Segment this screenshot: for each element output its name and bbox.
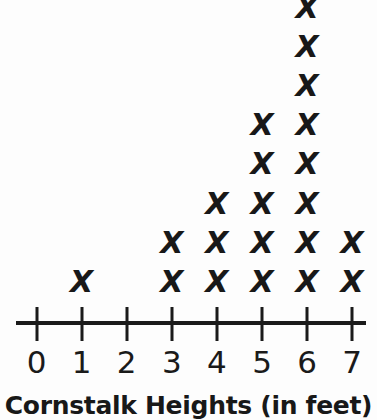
x-mark: X (160, 228, 183, 258)
x-mark: X (205, 228, 228, 258)
axis-tick-label: 0 (27, 347, 47, 378)
axis-tick-label: 7 (342, 347, 362, 378)
axis-tick (35, 307, 38, 341)
axis-tick-label: 6 (297, 347, 317, 378)
chart-title: Cornstalk Heights (in feet) (0, 393, 377, 418)
x-mark: X (250, 110, 273, 140)
x-mark: X (296, 32, 319, 62)
axis-line (16, 321, 366, 325)
x-mark: X (296, 149, 319, 179)
x-mark: X (250, 228, 273, 258)
x-mark: X (205, 189, 228, 219)
x-mark: X (296, 189, 319, 219)
axis-tick-label: 5 (252, 347, 272, 378)
axis-tick (125, 307, 128, 341)
axis-tick (351, 307, 354, 341)
axis-tick-label: 3 (162, 347, 182, 378)
axis-tick (261, 307, 264, 341)
axis-tick-label: 1 (72, 347, 92, 378)
axis-tick (215, 307, 218, 341)
x-mark: X (296, 71, 319, 101)
x-mark: X (250, 149, 273, 179)
x-mark: X (70, 267, 93, 297)
x-mark: X (250, 189, 273, 219)
x-mark: X (296, 0, 319, 23)
x-mark: X (296, 110, 319, 140)
x-mark: X (160, 267, 183, 297)
axis-tick-label: 4 (207, 347, 227, 378)
dot-plot-chart: XXXXXXXXXXXXXXXXXXXXX 01234567 Cornstalk… (0, 0, 377, 420)
axis-tick (80, 307, 83, 341)
x-mark: X (341, 228, 364, 258)
x-mark: X (341, 267, 364, 297)
axis-tick (306, 307, 309, 341)
x-mark: X (205, 267, 228, 297)
x-mark: X (250, 267, 273, 297)
x-mark: X (296, 267, 319, 297)
x-mark: X (296, 228, 319, 258)
axis-tick (170, 307, 173, 341)
axis-tick-label: 2 (117, 347, 137, 378)
